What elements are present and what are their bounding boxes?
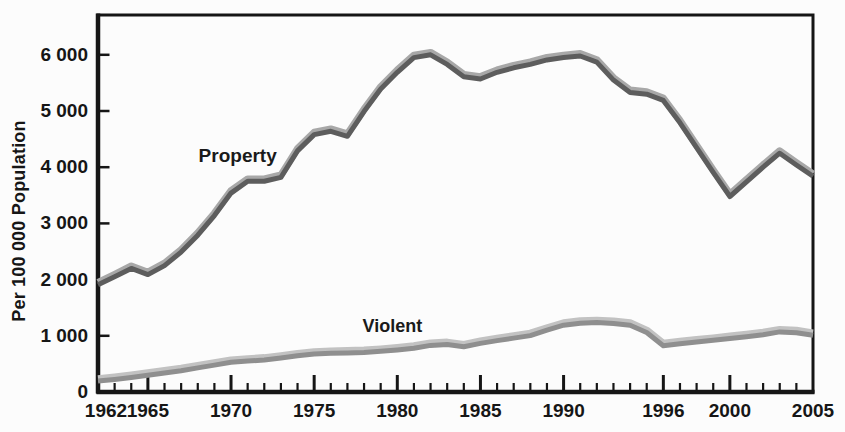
x-tick-label: 2000 [709, 400, 751, 422]
x-tick-label: 1985 [459, 400, 501, 422]
y-tick-label: 1 000 [18, 325, 88, 347]
y-tick-label: 3 000 [18, 212, 88, 234]
crime-rate-line-chart: Per 100 000 Population 01 0002 0003 0004… [0, 0, 845, 432]
property-line-highlight [98, 52, 813, 282]
x-tick-label: 1996 [642, 400, 684, 422]
x-tick-label: 1990 [542, 400, 584, 422]
violent-line [98, 323, 813, 382]
chart-canvas [0, 0, 845, 432]
x-tick-label: 2005 [792, 400, 834, 422]
y-tick-label: 2 000 [18, 269, 88, 291]
x-tick-label: 1965 [127, 400, 169, 422]
violent-line-highlight [98, 320, 813, 379]
y-tick-label: 6 000 [18, 44, 88, 66]
series-label-property: Property [199, 145, 277, 167]
series-label-violent: Violent [362, 315, 422, 336]
y-tick-label: 0 [18, 381, 88, 403]
x-tick-label: 1975 [293, 400, 335, 422]
x-tick-label: 1980 [376, 400, 418, 422]
y-tick-label: 4 000 [18, 156, 88, 178]
x-tick-label: 1970 [210, 400, 252, 422]
y-tick-label: 5 000 [18, 100, 88, 122]
x-tick-label: 1962 [85, 400, 127, 422]
property-line [98, 55, 813, 285]
